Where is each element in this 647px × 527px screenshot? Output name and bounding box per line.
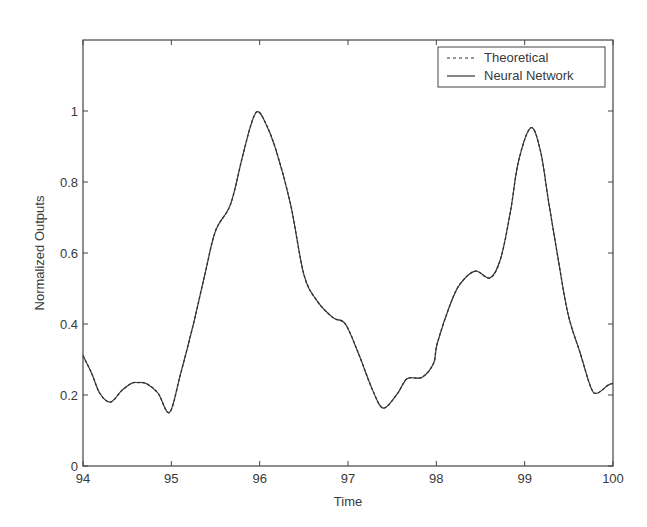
legend-label-neural-network: Neural Network xyxy=(484,68,574,83)
y-tick-label: 0.8 xyxy=(60,175,78,190)
line-chart: 949596979899100 00.20.40.60.81 Time Norm… xyxy=(0,0,647,527)
x-tick-label: 95 xyxy=(164,471,178,486)
y-tick-label: 1 xyxy=(71,104,78,119)
legend-label-theoretical: Theoretical xyxy=(484,50,548,65)
y-tick-label: 0.2 xyxy=(60,388,78,403)
x-tick-label: 96 xyxy=(252,471,266,486)
y-tick-label: 0.4 xyxy=(60,317,78,332)
x-axis-label: Time xyxy=(334,494,362,509)
x-tick-label: 100 xyxy=(602,471,624,486)
y-tick-label: 0 xyxy=(71,459,78,474)
x-tick-label: 98 xyxy=(429,471,443,486)
y-axis-label: Normalized Outputs xyxy=(32,195,47,310)
y-tick-label: 0.6 xyxy=(60,246,78,261)
legend: Theoretical Neural Network xyxy=(438,47,605,87)
x-tick-label: 99 xyxy=(517,471,531,486)
x-tick-label: 97 xyxy=(341,471,355,486)
